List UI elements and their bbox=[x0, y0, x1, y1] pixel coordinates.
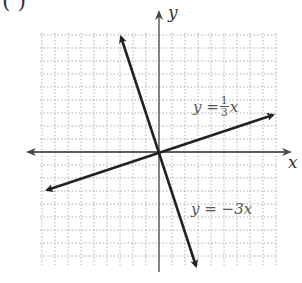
line-y-one-third-x bbox=[160, 115, 273, 153]
eq1-fraction: 1 3 bbox=[220, 95, 229, 118]
line-y-neg-3x bbox=[121, 37, 159, 152]
axes bbox=[28, 12, 290, 272]
line-y-one-third-x bbox=[47, 153, 160, 191]
y-axis-label: y bbox=[168, 2, 178, 22]
coordinate-plane bbox=[0, 0, 302, 283]
eq1-denominator: 3 bbox=[221, 107, 228, 118]
eq1-variable: x bbox=[230, 98, 238, 116]
equation-label-one-third: y = 1 3 x bbox=[193, 95, 238, 118]
equation-label-neg3: y = −3x bbox=[191, 200, 252, 218]
x-axis-label: x bbox=[288, 152, 298, 172]
eq1-lhs: y = bbox=[193, 98, 219, 116]
